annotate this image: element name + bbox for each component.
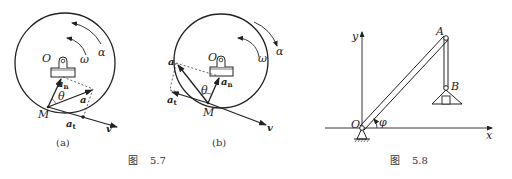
- diagram-canvas: O ω α M θ a an at v (a): [0, 0, 512, 179]
- label-point-a: A: [435, 25, 444, 38]
- label-alpha: α: [276, 45, 284, 58]
- label-center-o: O: [42, 52, 51, 65]
- label-tangential-accel: at: [66, 118, 76, 131]
- figure-5-8: y x O A B φ: [325, 25, 493, 142]
- caption-number: 5.8: [412, 155, 428, 166]
- normal-accel-vector: [208, 78, 219, 103]
- omega-arrow-icon: [238, 38, 259, 57]
- label-normal-accel: an: [221, 76, 233, 89]
- caption-prefix: 图: [128, 155, 138, 166]
- label-axis-x: x: [486, 129, 493, 142]
- alpha-arrow-icon: [254, 22, 277, 46]
- label-accel: a: [168, 56, 174, 67]
- label-point-m: M: [202, 106, 215, 119]
- joint-a: [444, 36, 449, 41]
- label-origin-o: O: [351, 118, 360, 131]
- label-omega: ω: [258, 52, 267, 65]
- label-point-m: M: [37, 108, 50, 121]
- label-tangential-accel: at: [167, 94, 177, 107]
- label-velocity: v: [106, 123, 112, 134]
- panel-label-b: (b): [212, 137, 226, 148]
- label-alpha: α: [98, 46, 106, 59]
- caption-number: 5.7: [150, 155, 166, 166]
- label-omega: ω: [80, 53, 89, 66]
- label-center-o: O: [208, 51, 217, 64]
- angle-arc-icon: [374, 119, 377, 128]
- figure-5-7a: O ω α M θ a an at v (a): [15, 13, 117, 148]
- panel-label-a: (a): [56, 137, 70, 148]
- label-velocity: v: [267, 122, 273, 133]
- label-point-b: B: [450, 80, 459, 93]
- label-axis-y: y: [351, 30, 359, 43]
- figure-5-7-caption: 图 5.7: [128, 155, 166, 166]
- label-theta: θ: [58, 90, 65, 103]
- label-accel: a: [80, 94, 86, 105]
- alpha-arrow-icon: [72, 23, 101, 44]
- caption-prefix: 图: [390, 155, 400, 166]
- label-theta: θ: [201, 84, 208, 97]
- rod-ab: [444, 38, 448, 87]
- pivot-support-icon: [51, 57, 75, 77]
- bar-oa: [360, 36, 448, 130]
- figure-5-7b: O ω α M θ a an at v (b): [167, 14, 284, 148]
- velocity-vector: [208, 103, 266, 125]
- figure-5-8-caption: 图 5.8: [390, 155, 428, 166]
- label-angle-phi: φ: [379, 116, 387, 129]
